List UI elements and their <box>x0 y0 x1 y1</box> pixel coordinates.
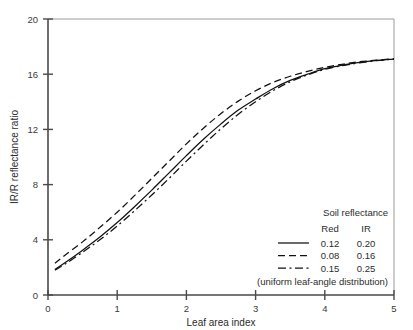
legend-row-2-red: 0.15 <box>321 263 340 274</box>
y-tick-label-4: 4 <box>33 234 38 245</box>
chart-figure: 0 4 8 12 16 20 0 1 2 3 4 5 Leaf area ind… <box>0 0 413 330</box>
x-tick-label-4: 4 <box>322 303 327 314</box>
legend-header-red: Red <box>321 223 338 234</box>
legend-row-0-ir: 0.20 <box>357 238 376 249</box>
x-tick-label-3: 3 <box>253 303 258 314</box>
y-tick-label-16: 16 <box>27 69 38 80</box>
legend-title: Soil reflectance <box>323 207 388 218</box>
legend-row-0-red: 0.12 <box>321 238 340 249</box>
y-axis-title: IR/R reflectance ratio <box>9 110 20 204</box>
y-tick-label-12: 12 <box>27 124 38 135</box>
legend-row-2-ir: 0.25 <box>357 263 376 274</box>
y-tick-label-20: 20 <box>27 14 38 25</box>
x-tick-label-1: 1 <box>115 303 120 314</box>
legend-footnote: (uniform leaf-angle distribution) <box>257 276 388 287</box>
legend-row-1-red: 0.08 <box>321 250 340 261</box>
legend-header-ir: IR <box>361 223 371 234</box>
x-tick-label-0: 0 <box>45 303 50 314</box>
legend-row-1-ir: 0.16 <box>357 250 376 261</box>
y-tick-label-8: 8 <box>33 179 38 190</box>
y-tick-label-0: 0 <box>33 290 38 301</box>
x-tick-label-5: 5 <box>391 303 396 314</box>
x-tick-label-2: 2 <box>184 303 189 314</box>
x-axis-title: Leaf area index <box>187 317 256 328</box>
line-chart-canvas: 0 4 8 12 16 20 0 1 2 3 4 5 Leaf area ind… <box>0 0 413 330</box>
